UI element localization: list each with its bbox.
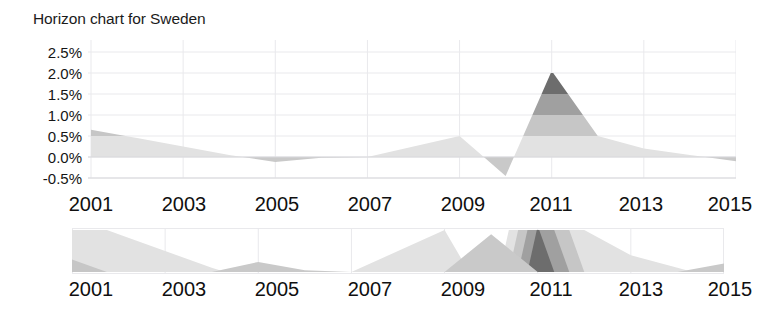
- mini-x-tick-2005: 2005: [255, 277, 300, 301]
- mini-x-tick-2001: 2001: [69, 277, 114, 301]
- main-x-axis-tick-labels: 2001 2003 2005 2007 2009 2011 2013 2015: [0, 192, 775, 218]
- mini-x-tick-2003: 2003: [162, 277, 207, 301]
- y-tick-0-0: 0.0%: [48, 150, 82, 165]
- y-tick-1-0: 1.0%: [48, 108, 82, 123]
- y-tick-2-0: 2.0%: [48, 66, 82, 81]
- y-tick-1-5: 1.5%: [48, 87, 82, 102]
- x-tick-2007: 2007: [348, 192, 393, 216]
- y-axis-tick-labels: 2.5% 2.0% 1.5% 1.0% 0.5% 0.0% -0.5%: [0, 40, 88, 195]
- x-tick-2013: 2013: [619, 192, 664, 216]
- main-horizon-svg: [88, 40, 736, 195]
- collapsed-horizon-svg: [72, 228, 724, 274]
- mini-x-tick-2009: 2009: [441, 277, 486, 301]
- y-tick-2-5: 2.5%: [48, 45, 82, 60]
- mini-x-tick-2011: 2011: [529, 277, 572, 301]
- x-tick-2015: 2015: [708, 192, 753, 216]
- chart-title: Horizon chart for Sweden: [33, 10, 206, 28]
- y-tick-neg-0-5: -0.5%: [43, 171, 82, 186]
- mini-x-tick-2015: 2015: [708, 277, 753, 301]
- horizon-chart-figure: Horizon chart for Sweden 2.5% 2.0% 1.5% …: [0, 0, 775, 328]
- x-tick-2001: 2001: [69, 192, 114, 216]
- collapsed-horizon-panel: [72, 228, 724, 274]
- mini-x-axis-tick-labels: 2001 2003 2005 2007 2009 2011 2013 2015: [0, 277, 775, 303]
- mini-x-tick-2007: 2007: [348, 277, 393, 301]
- y-tick-0-5: 0.5%: [48, 129, 82, 144]
- mini-x-tick-2013: 2013: [619, 277, 664, 301]
- x-tick-2005: 2005: [255, 192, 300, 216]
- main-horizon-panel: 2.5% 2.0% 1.5% 1.0% 0.5% 0.0% -0.5%: [0, 40, 775, 195]
- x-tick-2009: 2009: [441, 192, 486, 216]
- main-plot-area: [88, 40, 736, 195]
- x-tick-2011: 2011: [529, 192, 572, 216]
- x-tick-2003: 2003: [162, 192, 207, 216]
